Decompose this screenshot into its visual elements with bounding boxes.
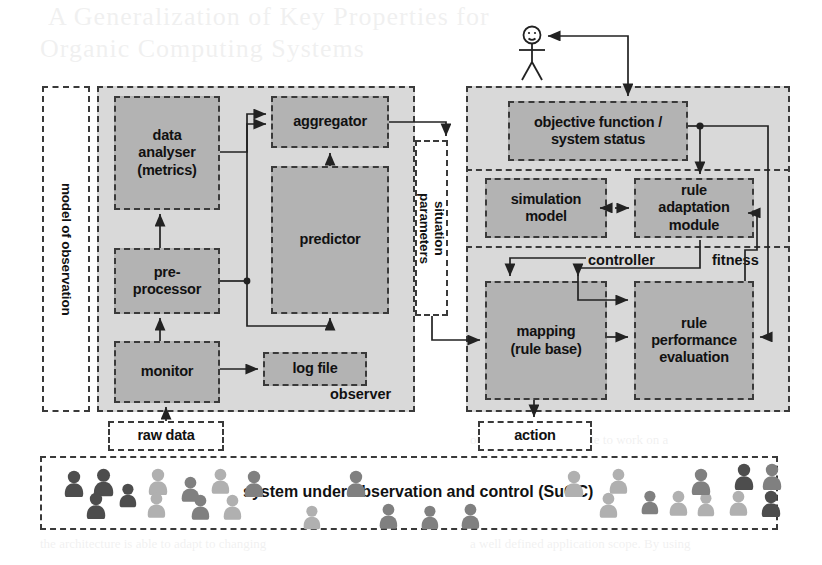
suoc-person-icon: [190, 494, 211, 521]
suoc-person-icon: [85, 492, 107, 520]
suoc-person-icon: [378, 503, 399, 530]
suoc-person-icon: [640, 490, 660, 515]
suoc-person-icon: [608, 468, 629, 495]
suoc-person-icon: [760, 490, 782, 518]
suoc-person-icon: [302, 505, 322, 530]
suoc-person-icon: [668, 490, 689, 517]
suoc-person-icon: [690, 468, 712, 496]
suoc-person-icon: [210, 468, 231, 495]
suoc-person-icon: [420, 505, 440, 530]
suoc-person-icon: [243, 470, 265, 498]
suoc-person-icon: [733, 463, 755, 491]
suoc-person-icon: [63, 470, 85, 498]
suoc-person-icon: [118, 483, 138, 508]
suoc-person-icon: [146, 492, 167, 519]
suoc-person-icon: [563, 470, 585, 498]
suoc-person-icon: [460, 503, 481, 530]
suoc-person-icon: [728, 490, 749, 517]
suoc-person-icon: [761, 463, 783, 491]
suoc-person-icon: [598, 492, 619, 519]
suoc-person-icon: [345, 470, 367, 498]
suoc-people-group: [0, 0, 822, 565]
suoc-person-icon: [222, 494, 243, 521]
